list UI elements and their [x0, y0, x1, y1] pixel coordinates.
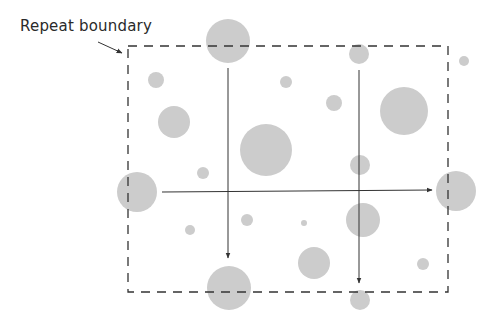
- circle-dot: [240, 124, 292, 176]
- repeat-pattern-diagram: [0, 0, 495, 318]
- circle-dot: [417, 258, 429, 270]
- circle-dot: [148, 72, 164, 88]
- circle-dot: [185, 225, 195, 235]
- circle-dot: [459, 56, 469, 66]
- circle-dot: [326, 95, 342, 111]
- circle-dot: [207, 266, 251, 310]
- circle-dot: [346, 203, 380, 237]
- circles-group: [117, 19, 476, 310]
- circle-dot: [350, 155, 370, 175]
- circle-dot: [436, 171, 476, 211]
- circle-dot: [158, 106, 190, 138]
- arrow-right: [162, 190, 432, 192]
- circle-dot: [350, 290, 370, 310]
- label-pointer-arrow: [98, 42, 122, 53]
- circle-dot: [280, 76, 292, 88]
- circle-dot: [349, 44, 369, 64]
- circle-dot: [241, 214, 253, 226]
- circle-dot: [298, 247, 330, 279]
- circle-dot: [206, 19, 250, 63]
- circle-dot: [301, 220, 307, 226]
- circle-dot: [117, 172, 157, 212]
- circle-dot: [197, 167, 209, 179]
- circle-dot: [380, 87, 428, 135]
